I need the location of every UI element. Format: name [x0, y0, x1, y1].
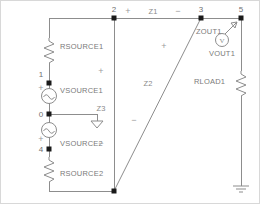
- z1-label: Z1: [149, 7, 158, 16]
- node-label-2: 2: [112, 5, 117, 14]
- node-dot-5: [239, 16, 244, 21]
- component-label-group: RSOURCE1 VSOURCE1 VSOURCE2 RSOURCE2 ZOUT…: [60, 27, 235, 178]
- schematic-canvas: V 1 2 3 5 0 4 RSOURCE1 VSOURCE1 VSOURCE2…: [1, 1, 260, 204]
- resistor-zigzag-icon: [44, 157, 54, 182]
- wire-z2-diagonal: [114, 18, 201, 191]
- ground-center-symbol: [91, 121, 103, 128]
- rsource1-label: RSOURCE1: [60, 42, 103, 51]
- node-label-1: 1: [39, 70, 44, 79]
- z1-minus-sign: −: [175, 6, 180, 16]
- node-dot-2: [112, 16, 117, 21]
- z2-label: Z2: [144, 79, 153, 88]
- voltmeter-glyph: V: [219, 37, 224, 45]
- node-dot-0: [47, 112, 52, 117]
- node-label-3: 3: [199, 5, 204, 14]
- rsource2-label: RSOURCE2: [60, 169, 103, 178]
- circuit-schematic: V 1 2 3 5 0 4 RSOURCE1 VSOURCE1 VSOURCE2…: [0, 0, 260, 204]
- node-dot-4: [47, 147, 52, 152]
- resistor-zigzag-icon: [44, 38, 54, 63]
- node-label-5: 5: [239, 5, 244, 14]
- z3-minus-sign: −: [98, 138, 103, 148]
- z3-plus-sign: +: [98, 66, 103, 76]
- rload1-symbol: [236, 71, 246, 96]
- z2-minus-sign: −: [131, 115, 136, 125]
- z2-plus-sign: +: [161, 41, 166, 51]
- vsource1-symbol: [42, 89, 57, 104]
- node-label-0: 0: [39, 110, 44, 119]
- ac-sine-icon: [44, 129, 55, 134]
- ac-sine-icon: [44, 95, 55, 100]
- zout1-label: ZOUT1: [196, 27, 222, 36]
- vsource1-label: VSOURCE1: [60, 86, 103, 95]
- resistor-zigzag-icon: [236, 71, 246, 96]
- rsource2-symbol: [44, 157, 54, 182]
- impedance-label-group: + Z1 − + Z2 − + Z3 −: [97, 6, 181, 148]
- node-dot-bottom: [112, 189, 117, 194]
- vsource1-plus-sign: +: [38, 83, 43, 93]
- vsource2-plus-sign: +: [38, 134, 43, 144]
- node-dot-3: [199, 16, 204, 21]
- ground-right-symbol: [233, 186, 249, 192]
- node-dot-1: [47, 81, 52, 86]
- z1-plus-sign: +: [125, 6, 130, 16]
- z3-label: Z3: [97, 104, 106, 113]
- vout1-label: VOUT1: [209, 49, 235, 58]
- rload1-label: RLOAD1: [194, 77, 225, 86]
- rsource1-symbol: [44, 38, 54, 63]
- ground-triangle-icon: [91, 121, 103, 128]
- vsource2-symbol: [42, 123, 57, 138]
- node-label-4: 4: [39, 145, 44, 154]
- vsource2-label: VSOURCE2: [60, 139, 103, 148]
